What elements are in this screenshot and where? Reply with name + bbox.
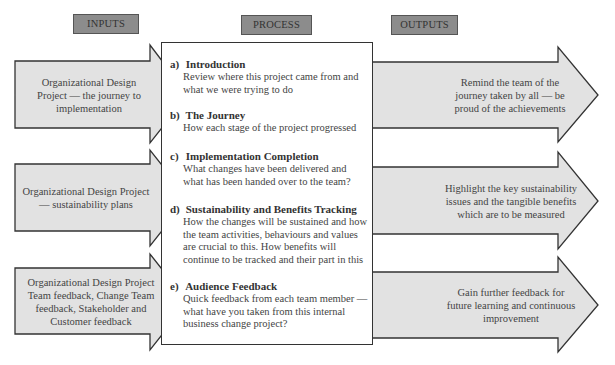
output-3-text: Gain further feedback for future learnin…: [445, 273, 577, 338]
step-title: Implementation Completion: [186, 150, 319, 162]
step-letter: e): [170, 280, 183, 293]
step-description: How the changes will be sustained and ho…: [170, 216, 368, 266]
input-1-text: Organizational Design Project — the jour…: [28, 62, 150, 128]
step-letter: b): [170, 109, 183, 122]
process-step-e: e) Audience Feedback Quick feedback from…: [170, 280, 368, 331]
output-2-text: Highlight the key sustainability issues …: [437, 168, 585, 234]
process-step-d: d) Sustainability and Benefits Tracking …: [170, 203, 368, 266]
step-letter: d): [170, 203, 183, 216]
step-title: The Journey: [186, 109, 246, 121]
step-letter: c): [170, 150, 183, 163]
step-title: Audience Feedback: [185, 280, 277, 292]
output-1-text: Remind the team of the journey taken by …: [445, 63, 575, 128]
input-2-text: Organizational Design Project — sustaina…: [20, 165, 152, 231]
step-description: How each stage of the project progressed: [170, 122, 368, 135]
inputs-header: INPUTS: [73, 14, 139, 34]
step-title: Introduction: [186, 58, 246, 70]
step-description: Quick feedback from each team member — w…: [170, 293, 368, 331]
step-description: Review where this project came from and …: [170, 71, 368, 96]
process-step-b: b) The Journey How each stage of the pro…: [170, 109, 368, 135]
process-step-a: a) Introduction Review where this projec…: [170, 58, 368, 96]
step-title: Sustainability and Benefits Tracking: [186, 203, 357, 215]
input-3-text: Organizational Design Project Team feedb…: [16, 269, 166, 335]
process-box: a) Introduction Review where this projec…: [161, 42, 373, 345]
process-step-c: c) Implementation Completion What change…: [170, 150, 368, 188]
step-description: What changes have been delivered and wha…: [170, 163, 368, 188]
outputs-header: OUTPUTS: [391, 15, 458, 35]
process-header: PROCESS: [241, 15, 312, 35]
step-letter: a): [170, 58, 183, 71]
